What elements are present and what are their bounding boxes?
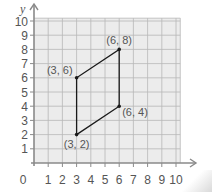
y-tick-label: 7 xyxy=(21,57,28,71)
coordinate-grid-figure: 12345678910123456789100xy(3, 2)(6, 4)(6,… xyxy=(0,0,212,192)
y-tick-label: 4 xyxy=(21,100,28,114)
y-tick-label: 2 xyxy=(21,128,28,142)
x-tick-label: 6 xyxy=(116,173,123,187)
x-tick-label: 7 xyxy=(130,173,137,187)
y-axis-label: y xyxy=(19,2,26,16)
vertex-point xyxy=(75,133,79,137)
vertex-label: (6, 8) xyxy=(106,34,132,46)
vertex-point xyxy=(75,76,79,80)
x-tick-label: 5 xyxy=(102,173,109,187)
vertex-label: (3, 6) xyxy=(47,64,73,76)
x-tick-label: 10 xyxy=(169,173,183,187)
x-tick-label: 9 xyxy=(158,173,165,187)
y-tick-label: 3 xyxy=(21,114,28,128)
x-tick-label: 1 xyxy=(45,173,52,187)
y-tick-label: 8 xyxy=(21,43,28,57)
x-tick-label: 3 xyxy=(73,173,80,187)
y-tick-label: 5 xyxy=(21,86,28,100)
vertex-label: (3, 2) xyxy=(64,138,90,150)
x-tick-label: 2 xyxy=(59,173,66,187)
vertex-label: (6, 4) xyxy=(122,106,148,118)
y-tick-label: 6 xyxy=(21,71,28,85)
x-tick-label: 8 xyxy=(144,173,151,187)
y-tick-label: 10 xyxy=(15,15,29,29)
x-tick-label: 4 xyxy=(87,173,94,187)
vertex-point xyxy=(117,48,121,52)
y-tick-label: 1 xyxy=(21,142,28,156)
origin-label: 0 xyxy=(20,173,27,187)
coordinate-plot: 12345678910123456789100xy(3, 2)(6, 4)(6,… xyxy=(0,0,212,192)
vertex-point xyxy=(117,104,121,108)
y-tick-label: 9 xyxy=(21,29,28,43)
